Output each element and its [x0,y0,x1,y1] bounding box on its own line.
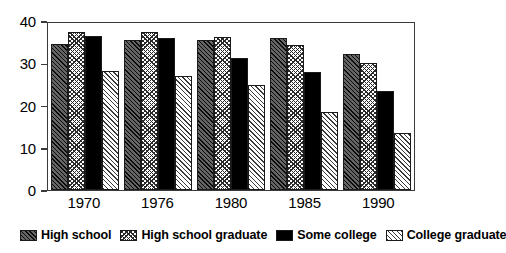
y-axis-tick-label: 0 [28,184,41,198]
bar [360,63,377,190]
bar [287,45,304,190]
legend-item[interactable]: College graduate [386,228,506,242]
bar [394,133,411,190]
bar-group [343,23,411,190]
bar [248,85,265,190]
x-axis: 19701976198019851990 [47,194,415,214]
x-axis-tick-label: 1985 [269,194,341,211]
chart-legend: High schoolHigh school graduateSome coll… [20,226,430,244]
bar-group [51,23,119,190]
bar-group [270,23,338,190]
x-axis-tick-label: 1980 [195,194,267,211]
legend-item[interactable]: High school graduate [120,228,267,242]
bar [124,40,141,190]
legend-swatch-icon [120,230,137,241]
bar [158,38,175,190]
y-axis-tick-label: 30 [20,57,41,71]
bar [51,44,68,190]
y-axis-tick: 30 [20,57,47,71]
y-axis-tick-label: 10 [20,142,41,156]
bar [343,54,360,190]
bar [214,37,231,190]
bar [231,58,248,190]
legend-label: College graduate [407,228,506,242]
bar [377,91,394,190]
bar [175,76,192,190]
bar-group [197,23,265,190]
bar [68,32,85,190]
y-axis-tick: 40 [20,15,47,29]
x-axis-tick-label: 1970 [48,194,120,211]
bar [85,36,102,190]
bar [102,71,119,190]
x-axis-tick-label: 1976 [121,194,193,211]
legend-item[interactable]: High school [20,228,111,242]
bars-layer [48,23,414,190]
y-axis-tick: 10 [20,142,47,156]
bar [270,38,287,190]
bar [197,40,214,190]
x-axis-tick-label: 1990 [342,194,414,211]
y-axis: 010203040 [0,0,47,191]
y-axis-tick-label: 20 [20,100,41,114]
y-axis-tick-label: 40 [20,15,41,29]
legend-label: High school [41,228,111,242]
legend-swatch-icon [20,230,37,241]
plot-area [47,22,415,191]
legend-label: High school graduate [141,228,267,242]
bar [321,112,338,190]
legend-swatch-icon [386,230,403,241]
legend-item[interactable]: Some college [276,228,376,242]
bar [304,72,321,190]
y-axis-tick: 20 [20,100,47,114]
bar [141,32,158,190]
y-axis-tick: 0 [28,184,47,198]
legend-swatch-icon [276,230,293,241]
bar-group [124,23,192,190]
legend-label: Some college [297,228,376,242]
